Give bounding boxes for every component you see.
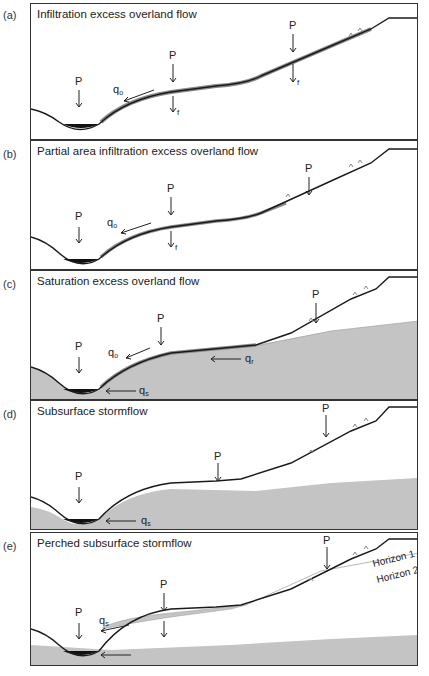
rain-label: P (75, 471, 82, 482)
perched-flow-label: qs (99, 615, 109, 627)
panel-e-perched-subsurface: Perched subsurface stormflow P P P qs Ho… (30, 532, 418, 666)
percolation-arrow-icon (161, 621, 167, 637)
rain-arrow-icon (168, 197, 174, 215)
ground-surface (31, 149, 418, 264)
rain-label: P (322, 403, 329, 414)
infiltration-label: f (175, 244, 177, 252)
panel-d-subsurface-stormflow: Subsurface stormflow P P P qs (30, 400, 418, 530)
vegetation-icon (309, 418, 368, 453)
rain-label: P (75, 607, 82, 618)
panel-a-letter: (a) (3, 9, 16, 21)
rain-arrow-icon (170, 64, 176, 82)
infiltration-arrow-icon (170, 96, 176, 112)
panel-e-letter: (e) (3, 540, 16, 552)
rain-label: P (305, 163, 312, 174)
rain-label: P (323, 535, 330, 546)
rain-label: P (167, 183, 174, 194)
rain-arrow-icon (76, 90, 82, 107)
saturated-zone (31, 321, 418, 400)
panel-a-title: Infiltration excess overland flow (37, 8, 197, 20)
panel-a-infiltration-excess: Infiltration excess overland flow P P P … (30, 3, 418, 140)
rain-label: P (75, 341, 82, 352)
saturated-zone (31, 635, 418, 666)
infiltration-arrow-icon (290, 64, 296, 82)
panel-c-title: Saturation excess overland flow (37, 275, 199, 287)
rain-arrow-icon (306, 177, 312, 195)
rain-arrow-icon (290, 34, 296, 52)
panel-c-letter: (c) (3, 278, 16, 290)
hillslope-diagram-e (31, 533, 418, 666)
rain-label: P (169, 50, 176, 61)
infiltration-label: f (177, 109, 179, 117)
hillslope-diagram-c (31, 271, 418, 400)
overland-flow-label: qo (108, 347, 118, 359)
rain-arrow-icon (161, 593, 167, 611)
return-flow-label: qr (245, 353, 253, 365)
rain-arrow-icon (313, 303, 319, 323)
rain-arrow-icon (215, 463, 221, 481)
overland-flow-band (101, 29, 371, 122)
rain-label: P (312, 289, 319, 300)
rain-label: P (214, 451, 221, 462)
panel-d-title: Subsurface stormflow (37, 405, 148, 417)
overland-flow-label: qo (113, 84, 123, 96)
hillslope-diagram-a (31, 4, 418, 140)
overland-flow-label: qo (107, 217, 117, 229)
panel-e-title: Perched subsurface stormflow (37, 537, 192, 549)
overland-flow-arrow-icon (126, 348, 150, 359)
infiltration-label: f (297, 79, 299, 87)
rain-arrow-icon (76, 357, 82, 373)
rain-arrows (76, 177, 312, 247)
infiltration-arrow-icon (168, 231, 174, 247)
rain-arrow-icon (158, 327, 164, 345)
panel-b-title: Partial area infiltration excess overlan… (37, 145, 258, 157)
rain-arrow-icon (76, 623, 82, 639)
panel-c-saturation-excess: Saturation excess overland flow P P P qo… (30, 270, 418, 400)
panel-d-letter: (d) (3, 408, 16, 420)
rain-arrow-icon (76, 227, 82, 243)
hillslope-diagram-b (31, 141, 418, 270)
rain-arrow-icon (323, 415, 329, 437)
rain-label: P (75, 76, 82, 87)
hillslope-diagram-d (31, 401, 418, 530)
subsurface-flow-label: qs (141, 515, 151, 527)
rain-arrow-icon (324, 547, 330, 569)
panel-b-letter: (b) (3, 148, 16, 160)
rain-label: P (289, 20, 296, 31)
rain-label: P (160, 579, 167, 590)
vegetation-icon (286, 160, 362, 197)
panel-b-partial-area: Partial area infiltration excess overlan… (30, 140, 418, 270)
rain-label: P (157, 313, 164, 324)
rain-arrow-icon (76, 487, 82, 503)
subsurface-flow-label: qs (139, 385, 149, 397)
rain-label: P (75, 211, 82, 222)
